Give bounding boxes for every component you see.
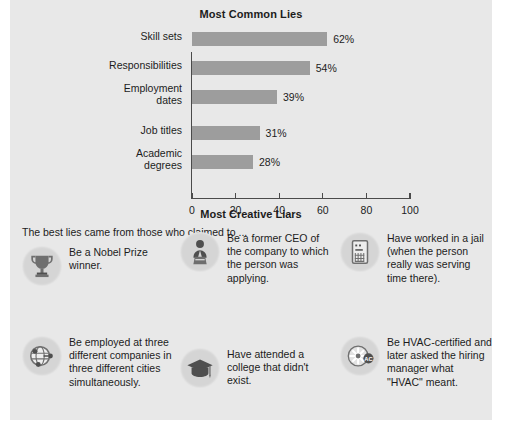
- bar-track: [192, 32, 327, 46]
- bar-track: [192, 126, 260, 140]
- bar: [192, 61, 310, 75]
- creative-liar-text: Be a former CEO of the company to which …: [227, 232, 332, 285]
- creative-liar-text: Be a Nobel Prize winner.: [69, 246, 172, 272]
- bar-category-label-line: Responsibilities: [10, 59, 182, 71]
- x-axis-tick: [366, 193, 367, 199]
- infographic-panel: Most Common Lies Skill sets62%Responsibi…: [10, 0, 492, 420]
- x-axis-tick: [322, 193, 323, 199]
- bar: [192, 155, 253, 169]
- trophy-icon: [22, 246, 62, 286]
- creative-liar-text: Be HVAC-certified and later asked the hi…: [387, 336, 492, 389]
- bar-chart-plot: Skill sets62%Responsibilities54%Employme…: [10, 26, 492, 176]
- chart-title: Most Common Lies: [10, 8, 492, 20]
- bar-value-label: 28%: [259, 155, 280, 169]
- bar-category-label-line: Academic: [10, 147, 182, 159]
- creative-liar-text: Have worked in a jail (when the person r…: [387, 232, 490, 285]
- bar-value-label: 54%: [316, 61, 337, 75]
- chart-section: Most Common Lies Skill sets62%Responsibi…: [10, 0, 492, 200]
- svg-text:AC: AC: [364, 356, 373, 362]
- x-axis-tick: [191, 193, 192, 199]
- globe-network-icon: [22, 336, 62, 376]
- bar-category-label-line: Skill sets: [10, 30, 182, 42]
- source-credit-line: [22, 424, 492, 434]
- bar-value-label: 39%: [283, 90, 304, 104]
- bar-track: [192, 90, 277, 104]
- bar: [192, 90, 277, 104]
- speaker-podium-icon: [180, 232, 220, 272]
- bar: [192, 32, 327, 46]
- graduation-cap-icon: [180, 348, 220, 388]
- x-axis-tick: [409, 193, 410, 199]
- jail-window-icon: [340, 232, 380, 272]
- bar-row: Employmentdates39%: [10, 90, 492, 118]
- bar-category-label: Job titles: [10, 124, 182, 136]
- bar-category-label: Responsibilities: [10, 59, 182, 71]
- bar-category-label: Academicdegrees: [10, 147, 182, 171]
- bar-category-label-line: Job titles: [10, 124, 182, 136]
- air-conditioner-icon: AC: [340, 336, 380, 376]
- creative-liar-item: ACBe HVAC-certified and later asked the …: [340, 336, 492, 389]
- creative-liar-item: Have attended a college that didn't exis…: [180, 348, 330, 388]
- bar-category-label-line: degrees: [10, 159, 182, 171]
- creative-liar-text: Have attended a college that didn't exis…: [227, 348, 330, 388]
- bar-category-label: Skill sets: [10, 30, 182, 42]
- bar-category-label-line: dates: [10, 94, 182, 106]
- bar-row: Skill sets62%: [10, 32, 492, 60]
- bar-category-label: Employmentdates: [10, 82, 182, 106]
- creative-liar-text: Be employed at three different companies…: [69, 336, 172, 389]
- bar-row: Academicdegrees28%: [10, 155, 492, 183]
- creative-liars-title: Most Creative Liars: [10, 208, 492, 220]
- x-axis-tick: [279, 193, 280, 199]
- bar-value-label: 62%: [333, 32, 354, 46]
- bar-value-label: 31%: [266, 126, 287, 140]
- creative-liar-item: Be employed at three different companies…: [22, 336, 172, 389]
- bar-track: [192, 61, 310, 75]
- bar: [192, 126, 260, 140]
- creative-liar-item: Be a former CEO of the company to which …: [180, 232, 332, 285]
- creative-liars-section: Most Creative Liars The best lies came f…: [10, 200, 492, 420]
- x-axis-tick: [235, 193, 236, 199]
- bar-category-label-line: Employment: [10, 82, 182, 94]
- bar-track: [192, 155, 253, 169]
- creative-liar-item: Be a Nobel Prize winner.: [22, 246, 172, 286]
- creative-liar-item: Have worked in a jail (when the person r…: [340, 232, 490, 285]
